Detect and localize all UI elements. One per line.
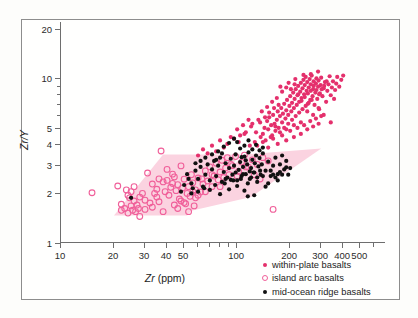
series-within-plate-basalts bbox=[196, 69, 345, 157]
data-point bbox=[227, 187, 231, 191]
data-point bbox=[260, 109, 264, 113]
data-point bbox=[248, 169, 252, 173]
data-point bbox=[89, 190, 95, 196]
data-point bbox=[260, 162, 264, 166]
data-point bbox=[158, 148, 164, 154]
y-tick bbox=[55, 128, 60, 129]
data-point bbox=[293, 97, 297, 101]
data-point bbox=[278, 85, 282, 89]
y-tick-label: 4 bbox=[32, 138, 52, 149]
data-point bbox=[206, 162, 210, 166]
legend-marker-icon bbox=[258, 275, 272, 281]
y-tick bbox=[55, 78, 60, 79]
data-point bbox=[284, 138, 288, 142]
data-point bbox=[304, 104, 308, 108]
data-point bbox=[246, 194, 250, 198]
x-tick-label: 100 bbox=[228, 250, 244, 261]
data-point bbox=[208, 178, 212, 182]
data-point bbox=[250, 158, 254, 162]
data-point bbox=[339, 78, 343, 82]
y-tick-label: 3 bbox=[32, 159, 52, 170]
data-point bbox=[261, 174, 265, 178]
data-point bbox=[299, 99, 303, 103]
scatter-plot-svg bbox=[61, 22, 386, 243]
data-point bbox=[276, 109, 280, 113]
data-point bbox=[278, 162, 282, 166]
data-point bbox=[283, 116, 287, 120]
data-point bbox=[290, 118, 294, 122]
y-tick-label: 20 bbox=[32, 23, 52, 34]
data-point bbox=[315, 97, 319, 101]
x-tick bbox=[183, 243, 184, 248]
data-point bbox=[198, 159, 202, 163]
data-point bbox=[284, 165, 288, 169]
data-point bbox=[316, 122, 320, 126]
y-tick bbox=[55, 144, 60, 145]
data-point bbox=[129, 196, 133, 200]
data-point bbox=[284, 159, 288, 163]
data-point bbox=[325, 79, 329, 83]
data-point bbox=[214, 158, 218, 162]
data-point bbox=[186, 177, 190, 181]
data-point bbox=[248, 144, 252, 148]
data-point bbox=[252, 193, 256, 197]
x-tick bbox=[228, 243, 229, 247]
y-tick bbox=[55, 193, 60, 194]
data-point bbox=[213, 183, 217, 187]
data-point bbox=[308, 77, 312, 81]
data-point bbox=[314, 116, 318, 120]
data-point bbox=[333, 88, 337, 92]
data-point bbox=[210, 167, 214, 171]
data-point bbox=[250, 122, 254, 126]
data-point bbox=[241, 165, 245, 169]
data-point bbox=[292, 123, 296, 127]
data-point bbox=[261, 145, 265, 149]
data-point bbox=[292, 135, 296, 139]
data-point bbox=[229, 178, 233, 182]
data-point bbox=[322, 84, 326, 88]
data-point bbox=[254, 153, 258, 157]
figure-root: 1020304050100200300400500 123451020 Zr (… bbox=[0, 0, 418, 318]
data-point bbox=[289, 109, 293, 113]
x-tick-label: 30 bbox=[139, 250, 150, 261]
data-point bbox=[265, 119, 269, 123]
data-point bbox=[286, 113, 290, 117]
data-point bbox=[258, 169, 262, 173]
data-point bbox=[220, 151, 224, 155]
data-point bbox=[335, 75, 339, 79]
data-point bbox=[287, 81, 291, 85]
data-point bbox=[284, 127, 288, 131]
data-point bbox=[288, 166, 292, 170]
data-point bbox=[267, 115, 271, 119]
data-point bbox=[281, 112, 285, 116]
data-point bbox=[224, 161, 228, 165]
data-point bbox=[246, 181, 250, 185]
x-tick bbox=[320, 243, 321, 248]
data-point bbox=[193, 161, 197, 165]
legend-label: mid-ocean ridge basalts bbox=[272, 287, 371, 297]
data-point bbox=[257, 156, 261, 160]
data-point bbox=[293, 82, 297, 86]
y-tick bbox=[55, 29, 60, 30]
data-point bbox=[301, 73, 305, 77]
data-point bbox=[252, 170, 256, 174]
data-point bbox=[311, 113, 315, 117]
data-point bbox=[238, 133, 242, 137]
data-point bbox=[241, 172, 245, 176]
data-point bbox=[266, 160, 270, 164]
data-point bbox=[310, 94, 314, 98]
data-canvas bbox=[61, 22, 386, 243]
data-point bbox=[329, 93, 333, 97]
data-point bbox=[288, 94, 292, 98]
data-point bbox=[234, 152, 238, 156]
data-point bbox=[241, 123, 245, 127]
data-point bbox=[272, 106, 276, 110]
data-point bbox=[196, 177, 200, 181]
data-point bbox=[322, 113, 326, 117]
data-point bbox=[255, 180, 259, 184]
y-tick bbox=[57, 104, 61, 105]
data-point bbox=[196, 153, 200, 157]
x-axis-title-symbol: Zr bbox=[145, 272, 155, 284]
data-point bbox=[341, 73, 345, 77]
data-point bbox=[297, 110, 301, 114]
